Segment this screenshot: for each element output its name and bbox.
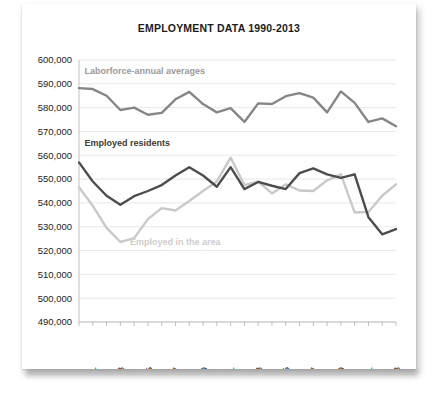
x-axis-tick-label: 2009 [335,367,346,369]
x-axis-tick-label: 2013 [391,367,402,369]
series-annotation-label: Laborforce-annual averages [85,66,206,76]
y-axis-tick-label: 510,000 [38,269,72,280]
x-axis-tick-label: 2005 [280,367,291,369]
x-axis-tick-label: 2007 [308,367,319,369]
y-axis-tick-label: 600,000 [38,54,72,65]
x-axis-tick-label: 1991 [87,367,98,369]
chart-card: EMPLOYMENT DATA 1990-2013 600,000590,000… [22,4,416,369]
y-axis-tick-label: 490,000 [38,316,72,327]
y-axis-tick-label: 550,000 [38,173,72,184]
x-axis-tick-label: 2003 [253,367,264,369]
employment-line-chart: 600,000590,000580,000570,000560,000550,0… [22,4,416,369]
x-axis-tick-label: 1995 [143,367,154,369]
series-line-laborforce-annual-averages [79,88,396,126]
y-axis-tick-label: 530,000 [38,221,72,232]
plot-area: 600,000590,000580,000570,000560,000550,0… [22,4,416,369]
screenshot-root: EMPLOYMENT DATA 1990-2013 600,000590,000… [0,0,437,402]
y-axis-tick-label: 570,000 [38,126,72,137]
y-axis-tick-label: 520,000 [38,245,72,256]
x-axis-tick-label: 1999 [198,367,209,369]
x-axis-tick-label: 2011 [363,367,374,369]
series-annotation-label: Employed in the area [130,237,222,247]
series-annotation-label: Employed residents [85,138,171,148]
x-axis-tick-label: 1993 [115,367,126,369]
x-axis-tick-label: 1997 [170,367,181,369]
y-axis-tick-label: 590,000 [38,78,72,89]
y-axis-tick-label: 540,000 [38,197,72,208]
card-drop-shadow [26,370,418,379]
y-axis-tick-label: 500,000 [38,293,72,304]
x-axis-tick-label: 2001 [225,367,236,369]
y-axis-tick-label: 580,000 [38,102,72,113]
y-axis-tick-label: 560,000 [38,150,72,161]
